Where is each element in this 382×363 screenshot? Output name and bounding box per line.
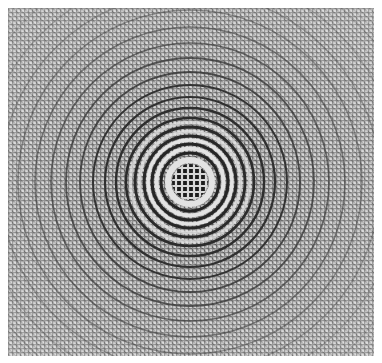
moire-pattern-image (8, 8, 374, 356)
